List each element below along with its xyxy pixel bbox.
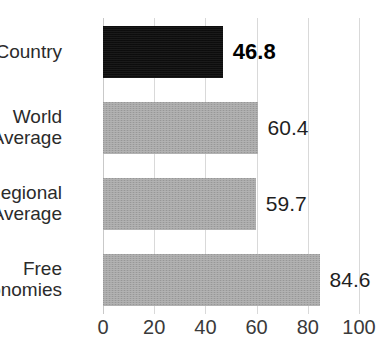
category-label: Country (0, 41, 62, 62)
bar-row[interactable]: Country46.8 (103, 26, 359, 78)
value-label: 59.7 (266, 178, 307, 230)
category-label: RegionalAverage (0, 182, 62, 224)
x-axis: 020406080100 (103, 314, 359, 348)
bar-row[interactable]: WorldAverage60.4 (103, 102, 359, 154)
x-tick-label-40: 40 (194, 316, 216, 339)
value-label: 84.6 (330, 254, 371, 306)
category-label: FreeEconomies (0, 258, 62, 300)
x-tick-label-0: 0 (97, 316, 108, 339)
bar-regional-average[interactable] (103, 178, 256, 230)
category-label: WorldAverage (0, 106, 62, 148)
x-tick-label-100: 100 (342, 316, 375, 339)
bar-row[interactable]: RegionalAverage59.7 (103, 178, 359, 230)
category-label-line-1: Free (0, 258, 62, 279)
plot-area: Country46.8WorldAverage60.4RegionalAvera… (103, 18, 359, 314)
category-label-line-1: Regional (0, 182, 62, 203)
bar-chart: Country46.8WorldAverage60.4RegionalAvera… (0, 0, 392, 356)
x-tick-label-80: 80 (297, 316, 319, 339)
category-label-line-2: Economies (0, 279, 62, 300)
value-label: 46.8 (233, 26, 276, 78)
category-label-line-2: Average (0, 203, 62, 224)
x-tick-label-20: 20 (143, 316, 165, 339)
value-label: 60.4 (268, 102, 309, 154)
bar-free-economies[interactable] (103, 254, 320, 306)
chart-title (0, 0, 392, 2)
category-label-line-1: World (0, 106, 62, 127)
bar-world-average[interactable] (103, 102, 258, 154)
bar-country[interactable] (103, 26, 223, 78)
x-tick-label-60: 60 (245, 316, 267, 339)
category-label-line-2: Average (0, 127, 62, 148)
bar-row[interactable]: FreeEconomies84.6 (103, 254, 359, 306)
